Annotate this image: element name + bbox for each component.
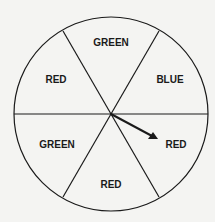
section-label: RED [45, 74, 66, 85]
section-label: BLUE [156, 74, 184, 85]
section-label: GREEN [93, 37, 129, 48]
section-label: RED [165, 139, 186, 150]
section-label: GREEN [39, 139, 75, 150]
section-label: RED [100, 179, 121, 190]
spinner-diagram: GREEN BLUE RED RED GREEN RED [0, 0, 215, 222]
